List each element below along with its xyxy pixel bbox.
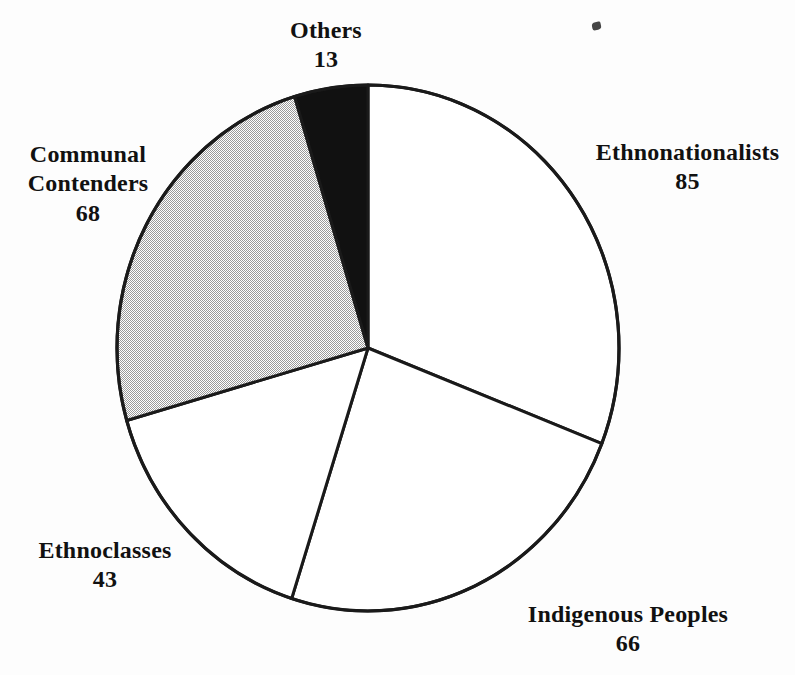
slice-label-ethnoclasses: Ethnoclasses 43 bbox=[10, 536, 200, 595]
slice-label-communal-contenders-value: 68 bbox=[2, 199, 174, 228]
slice-label-indigenous-peoples: Indigenous Peoples 66 bbox=[478, 600, 778, 659]
slice-label-communal-contenders: Communal Contenders 68 bbox=[2, 140, 174, 228]
pie-slices bbox=[117, 85, 619, 611]
slice-label-communal-contenders-name-line1: Communal bbox=[2, 140, 174, 169]
slice-label-ethnoclasses-name: Ethnoclasses bbox=[10, 536, 200, 565]
slice-label-ethnonationalists-value: 85 bbox=[580, 167, 795, 196]
slice-label-others: Others 13 bbox=[216, 16, 436, 75]
slice-label-communal-contenders-name-line2: Contenders bbox=[2, 169, 174, 198]
slice-label-ethnonationalists: Ethnonationalists 85 bbox=[580, 138, 795, 197]
slice-label-ethnonationalists-name: Ethnonationalists bbox=[580, 138, 795, 167]
slice-label-ethnoclasses-value: 43 bbox=[10, 565, 200, 594]
pie-chart-figure: Others 13 Ethnonationalists 85 Communal … bbox=[0, 0, 795, 675]
slice-label-others-value: 13 bbox=[216, 45, 436, 74]
slice-label-indigenous-peoples-value: 66 bbox=[478, 629, 778, 658]
slice-label-indigenous-peoples-name: Indigenous Peoples bbox=[478, 600, 778, 629]
slice-label-others-name: Others bbox=[216, 16, 436, 45]
